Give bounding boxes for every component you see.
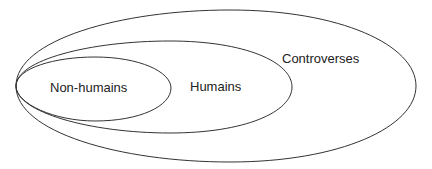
non-humains-label: Non-humains [50, 81, 127, 94]
diagram-canvas: Non-humains Humains Controverses [0, 0, 432, 169]
controverses-label: Controverses [282, 52, 359, 65]
humains-label: Humains [190, 80, 241, 93]
